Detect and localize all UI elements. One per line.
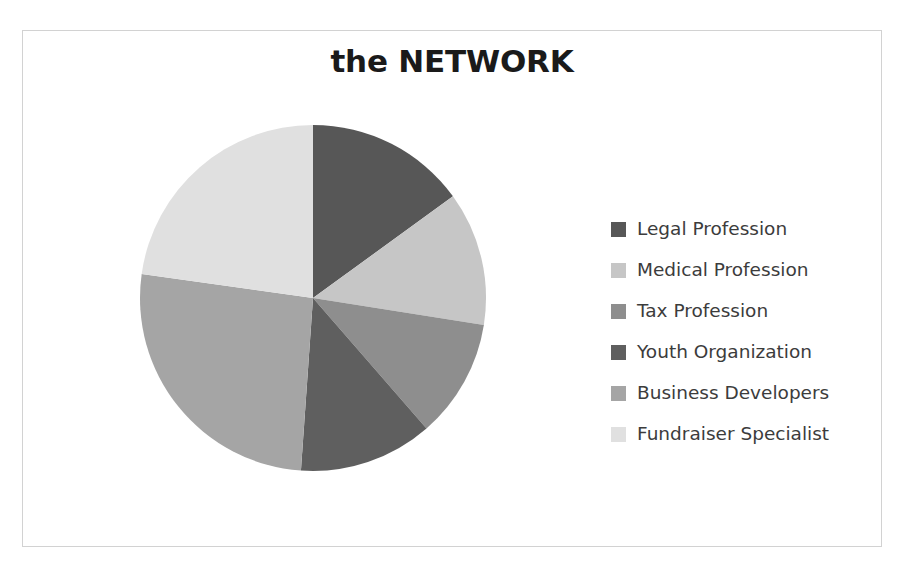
- legend-item-medical-profession[interactable]: Medical Profession: [611, 250, 873, 291]
- legend-label-medical-profession: Medical Profession: [637, 260, 808, 280]
- legend-item-business-developers[interactable]: Business Developers: [611, 373, 873, 414]
- legend-swatch-legal-profession: [611, 222, 626, 237]
- legend-swatch-medical-profession: [611, 263, 626, 278]
- legend-label-tax-profession: Tax Profession: [637, 301, 768, 321]
- chart-legend: Legal Profession Medical Profession Tax …: [611, 209, 873, 455]
- chart-frame: the NETWORK Legal Profession Medical Pro…: [22, 30, 882, 547]
- legend-label-business-developers: Business Developers: [637, 383, 829, 403]
- legend-item-youth-organization[interactable]: Youth Organization: [611, 332, 873, 373]
- legend-swatch-fundraiser-specialist: [611, 427, 626, 442]
- legend-item-fundraiser-specialist[interactable]: Fundraiser Specialist: [611, 414, 873, 455]
- legend-item-tax-profession[interactable]: Tax Profession: [611, 291, 873, 332]
- legend-swatch-tax-profession: [611, 304, 626, 319]
- pie-chart-svg: [138, 123, 488, 473]
- pie-slice[interactable]: [140, 274, 313, 471]
- legend-label-youth-organization: Youth Organization: [637, 342, 812, 362]
- legend-label-fundraiser-specialist: Fundraiser Specialist: [637, 424, 829, 444]
- pie-slice[interactable]: [142, 125, 313, 298]
- legend-swatch-business-developers: [611, 386, 626, 401]
- screenshot-root: the NETWORK Legal Profession Medical Pro…: [0, 0, 902, 569]
- legend-item-legal-profession[interactable]: Legal Profession: [611, 209, 873, 250]
- legend-label-legal-profession: Legal Profession: [637, 219, 787, 239]
- legend-swatch-youth-organization: [611, 345, 626, 360]
- pie-slice-group: [140, 125, 486, 471]
- pie-chart: [138, 123, 488, 473]
- chart-title: the NETWORK: [23, 43, 881, 79]
